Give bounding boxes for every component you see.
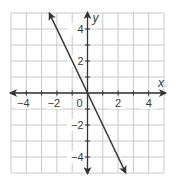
y-tick-label: 2 bbox=[77, 55, 83, 67]
origin-label: 0 bbox=[76, 97, 82, 109]
x-tick-label: −2 bbox=[48, 97, 61, 109]
x-tick-label: 2 bbox=[115, 97, 121, 109]
y-tick-label: −2 bbox=[71, 119, 84, 131]
coordinate-plane: −4−224−4−2240 x y bbox=[0, 0, 177, 183]
y-axis-label: y bbox=[92, 11, 100, 25]
x-tick-label: 4 bbox=[146, 97, 152, 109]
x-tick-label: −4 bbox=[17, 97, 30, 109]
y-tick-label: −4 bbox=[71, 151, 84, 163]
y-tick-label: 4 bbox=[77, 23, 83, 35]
x-axis-label: x bbox=[157, 76, 165, 90]
